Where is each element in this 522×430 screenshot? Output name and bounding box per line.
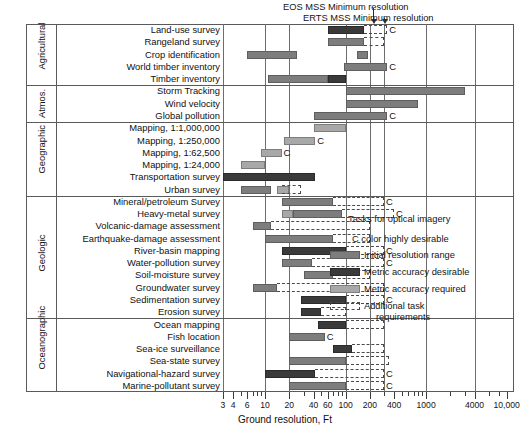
x-tick-5 <box>241 392 242 396</box>
bar-req-row10-0 <box>261 149 281 157</box>
x-tick-100 <box>346 392 347 399</box>
bar-init-row29-0 <box>289 382 345 390</box>
task-label-29: Marine-pollutant survey <box>123 380 220 391</box>
bar-init-row20-0 <box>304 271 334 279</box>
bar-init-row27-0 <box>289 357 345 365</box>
bar-desir-row26-0 <box>333 345 352 353</box>
bar-init-row21-0 <box>253 284 277 292</box>
x-tick-4000 <box>475 392 476 399</box>
task-label-26: Sea-ice surveillance <box>136 343 220 354</box>
bar-init-row13-0 <box>241 186 272 194</box>
group-label-oceanographic: Oceanographic <box>36 340 47 370</box>
x-tick-label-20: 20 <box>285 400 295 410</box>
task-label-12: Transportation survey <box>130 171 220 182</box>
bar-init-row5-0 <box>346 87 465 95</box>
gridline-label-separator <box>223 24 224 392</box>
gridline-4000 <box>475 24 476 392</box>
task-label-14: Mineral/petroleum Survey <box>113 196 220 207</box>
x-tick-label-4000: 4000 <box>465 400 484 410</box>
task-label-6: Wind velocity <box>165 98 220 109</box>
task-label-28: Navigational-hazard survey <box>106 368 220 379</box>
x-tick-500 <box>402 392 403 396</box>
bar-add-row29-1 <box>346 381 384 390</box>
group-label-agricultural: Agricultural <box>36 39 47 69</box>
bar-req-row9-0 <box>284 137 316 145</box>
legend-swatch-initial-resolution-range <box>330 251 360 259</box>
bar-init-row25-0 <box>289 333 324 341</box>
x-tick-600 <box>408 392 409 396</box>
task-label-9: Mapping, 1:250,000 <box>137 135 220 146</box>
x-tick-label-10: 10 <box>260 400 270 410</box>
x-tick-3 <box>223 392 224 399</box>
bar-add-row26-1 <box>352 344 384 353</box>
legend-label-additional-task-2: requirements <box>376 312 430 322</box>
x-tick-8 <box>257 392 258 396</box>
bar-desir-row4-1 <box>328 75 346 83</box>
gridline-100 <box>346 24 347 392</box>
x-tick-label-200: 200 <box>363 400 377 410</box>
erts-callout-arrowhead <box>382 19 388 24</box>
task-label-4: Timber inventory <box>151 73 220 84</box>
bar-req-row8-0 <box>314 124 346 132</box>
legend-label-initial-resolution-range: Initial resolution range <box>364 250 455 260</box>
x-tick-label-400: 400 <box>387 400 401 410</box>
legend-swatch-metric-accuracy-desirable <box>330 268 360 276</box>
group-label-geologic: Geologic <box>36 242 47 272</box>
eos-callout-label: EOS MSS Minimum resolution <box>283 2 409 12</box>
legend-label-metric-accuracy-required: Metric accuracy required <box>364 284 466 294</box>
task-label-16: Volcanic-damage assessment <box>95 220 220 231</box>
x-tick-8000 <box>499 392 500 396</box>
x-tick-label-3: 3 <box>221 400 226 410</box>
bar-add-row14-1 <box>333 197 384 206</box>
task-label-27: Sea-state survey <box>150 355 220 366</box>
bar-add-row13-2 <box>282 185 302 194</box>
bar-init-row3-0 <box>344 63 388 71</box>
x-tick-300 <box>384 392 385 396</box>
task-label-18: River-basin mapping <box>134 245 220 256</box>
task-label-1: Rangeland survey <box>144 36 220 47</box>
x-tick-label-1000: 1000 <box>417 400 436 410</box>
task-label-0: Land-use survey <box>151 24 220 35</box>
bar-init-row15-1 <box>293 210 342 218</box>
bar-desir-row0-0 <box>328 26 364 34</box>
bar-desir-row28-0 <box>265 370 315 378</box>
bar-init-row17-0 <box>265 235 333 243</box>
bar-add-row1-1 <box>364 37 384 46</box>
x-tick-6 <box>247 392 248 399</box>
x-tick-80 <box>338 392 339 396</box>
task-label-22: Sedimentation survey <box>130 294 220 305</box>
color-desirable-mark-row9: C <box>317 136 324 145</box>
bar-add-row28-1 <box>315 369 384 378</box>
x-tick-30 <box>304 392 305 396</box>
x-tick-9 <box>261 392 262 396</box>
color-desirable-mark-row28: C <box>386 369 393 378</box>
x-tick-4 <box>233 392 234 399</box>
x-tick-60 <box>328 392 329 399</box>
x-tick-10 <box>265 392 266 399</box>
gridline-200 <box>370 24 371 392</box>
bar-init-row2-0 <box>247 51 297 59</box>
x-tick-2000 <box>450 392 451 396</box>
bar-init-row2-1 <box>357 51 368 59</box>
color-desirable-mark-row7: C <box>389 111 396 120</box>
x-axis: 346102040601002004001000400010,000 Groun… <box>56 392 514 430</box>
legend-swatch-metric-accuracy-required <box>330 285 360 293</box>
legend-color-note: C color highly desirable <box>352 234 449 244</box>
legend-label-metric-accuracy-desirable: Metric accuracy desirable <box>364 267 469 277</box>
task-label-10: Mapping, 1:62,500 <box>142 147 220 158</box>
bar-init-row6-0 <box>346 100 419 108</box>
x-tick-700 <box>414 392 415 396</box>
task-label-20: Soil-moisture survey <box>135 269 220 280</box>
x-tick-7 <box>253 392 254 396</box>
bar-desir-row24-0 <box>318 321 346 329</box>
color-desirable-mark-row3: C <box>389 62 396 71</box>
x-tick-label-100: 100 <box>338 400 352 410</box>
x-tick-40 <box>314 392 315 399</box>
bar-init-row16-0 <box>253 222 272 230</box>
group-label-geographic: Geographic <box>36 143 47 173</box>
legend-heading: Tasks for optical imagery <box>348 214 450 224</box>
x-tick-50 <box>321 392 322 396</box>
x-tick-900 <box>422 392 423 396</box>
x-tick-label-10000: 10,000 <box>493 400 519 410</box>
bar-init-row19-0 <box>282 259 312 267</box>
